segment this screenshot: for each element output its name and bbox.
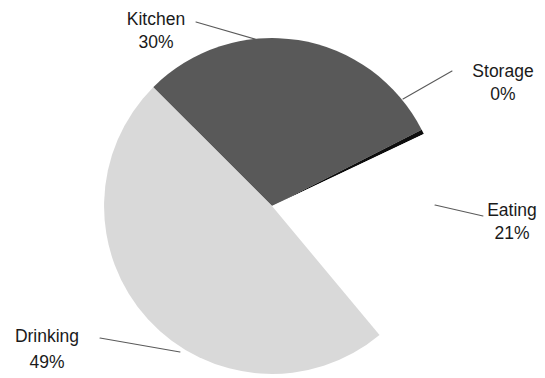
slice-label-drinking: Drinking: [15, 326, 79, 346]
slice-label-kitchen: Kitchen: [127, 9, 185, 29]
slice-value-storage: 0%: [490, 84, 515, 104]
pie-chart-figure: Kitchen30%Storage0%Eating21%Drinking49%: [0, 0, 545, 378]
slice-value-kitchen: 30%: [138, 32, 173, 52]
pie-chart-canvas: Kitchen30%Storage0%Eating21%Drinking49%: [0, 0, 545, 378]
slice-label-storage: Storage: [472, 61, 533, 81]
slice-value-eating: 21%: [494, 223, 529, 243]
slice-value-drinking: 49%: [29, 352, 64, 372]
slice-label-eating: Eating: [487, 200, 537, 220]
pie-slices-group: [104, 38, 440, 374]
